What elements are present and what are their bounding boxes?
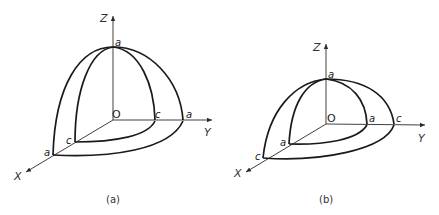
x-axis-label: X — [13, 170, 22, 183]
y-axis-label: Y — [418, 132, 426, 145]
outer-xz-arc — [53, 47, 113, 155]
y-axis — [326, 124, 425, 125]
x-outer-intercept-label: a — [44, 147, 50, 158]
z-intercept-label: a — [328, 69, 334, 80]
panel-a-caption: (a) — [106, 194, 120, 205]
panel-b: Z Y X O a a c a c (b) — [233, 41, 426, 205]
inner-xy-arc — [289, 125, 367, 144]
origin-label: O — [112, 108, 121, 121]
x-inner-intercept-label: c — [66, 135, 72, 146]
x-inner-intercept-label: a — [280, 137, 286, 148]
ellipsoid-octant-figure: Z Y X O a c a c a (a) Z Y X O a a c — [0, 0, 439, 215]
z-axis-label: Z — [99, 12, 108, 25]
panel-b-caption: (b) — [319, 194, 333, 205]
outer-xz-arc — [263, 79, 326, 158]
origin-label: O — [327, 112, 336, 125]
y-outer-intercept-label: a — [186, 109, 192, 120]
y-axis-label: Y — [204, 126, 212, 139]
x-axis — [246, 124, 326, 172]
z-intercept-label: a — [115, 37, 121, 48]
inner-xy-arc — [75, 121, 155, 142]
z-axis-label: Z — [312, 41, 321, 54]
y-outer-intercept-label: c — [396, 113, 402, 124]
y-inner-intercept-label: a — [369, 113, 375, 124]
y-inner-intercept-label: c — [155, 109, 161, 120]
x-outer-intercept-label: c — [255, 151, 261, 162]
x-axis-label: X — [233, 167, 242, 180]
inner-xz-arc — [289, 79, 326, 144]
panel-a: Z Y X O a c a c a (a) — [13, 12, 212, 205]
x-axis — [26, 120, 113, 172]
outer-yz-arc — [326, 79, 394, 124]
